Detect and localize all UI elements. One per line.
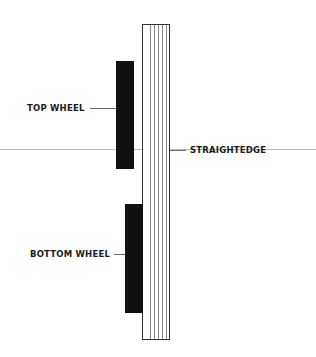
bottom-wheel xyxy=(125,204,143,313)
straightedge-label: STRAIGHTEDGE xyxy=(190,145,266,155)
top-wheel-leader xyxy=(90,108,116,109)
straightedge-leader xyxy=(170,150,186,151)
bottom-wheel-leader xyxy=(114,254,125,255)
bottom-wheel-label: BOTTOM WHEEL xyxy=(30,249,110,259)
top-wheel-label: TOP WHEEL xyxy=(27,103,85,113)
straightedge xyxy=(142,24,170,340)
top-wheel xyxy=(116,61,134,169)
